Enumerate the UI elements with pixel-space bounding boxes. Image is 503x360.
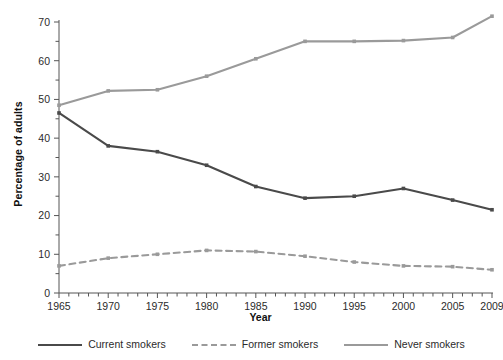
data-point xyxy=(106,256,110,260)
data-point xyxy=(205,163,209,167)
data-point xyxy=(57,103,61,107)
data-point xyxy=(205,74,209,78)
x-axis-title: Year xyxy=(249,311,271,323)
series-2 xyxy=(57,249,494,272)
legend-item-3[interactable]: Never smokers xyxy=(344,338,465,350)
legend-label: Never smokers xyxy=(394,338,465,350)
y-tick-labels: 010203040506070 xyxy=(38,16,50,299)
y-tick-label: 50 xyxy=(38,93,50,105)
data-point xyxy=(156,252,160,256)
data-point xyxy=(205,249,209,253)
data-point xyxy=(402,39,406,43)
data-point xyxy=(352,194,356,198)
data-point xyxy=(254,185,258,189)
legend-item-1[interactable]: Current smokers xyxy=(38,338,166,350)
series-layer xyxy=(57,14,494,271)
series-3 xyxy=(57,14,494,107)
data-point xyxy=(402,187,406,191)
legend-swatch-icon xyxy=(344,339,388,349)
data-point xyxy=(451,36,455,40)
chart-legend: Current smokersFormer smokersNever smoke… xyxy=(0,331,503,357)
y-axis-title-wrap: Percentage of adults xyxy=(0,0,26,300)
data-point xyxy=(490,208,494,212)
y-tick-label: 10 xyxy=(38,248,50,260)
y-axis-title: Percentage of adults xyxy=(12,79,24,229)
legend-swatch-icon xyxy=(192,339,236,349)
data-point xyxy=(303,254,307,258)
y-tick-label: 30 xyxy=(38,171,50,183)
data-point xyxy=(352,260,356,264)
series-line xyxy=(59,250,492,269)
data-point xyxy=(106,89,110,93)
data-point xyxy=(490,268,494,272)
legend-label: Former smokers xyxy=(242,338,318,350)
data-point xyxy=(303,196,307,200)
line-chart: Percentage of adults 010203040506070 196… xyxy=(0,0,503,360)
data-point xyxy=(254,250,258,254)
legend-swatch-icon xyxy=(38,339,82,349)
data-point xyxy=(57,264,61,268)
data-point xyxy=(156,88,160,92)
x-axis-ticks xyxy=(59,293,492,298)
data-point xyxy=(352,40,356,44)
data-point xyxy=(451,265,455,269)
series-line xyxy=(59,16,492,105)
data-point xyxy=(106,144,110,148)
y-tick-label: 20 xyxy=(38,209,50,221)
data-point xyxy=(490,14,494,18)
legend-item-2[interactable]: Former smokers xyxy=(192,338,318,350)
y-tick-label: 0 xyxy=(44,287,50,299)
data-point xyxy=(451,198,455,202)
data-point xyxy=(57,111,61,115)
data-point xyxy=(254,57,258,61)
series-1 xyxy=(57,111,494,211)
y-axis-ticks xyxy=(54,22,59,293)
legend-label: Current smokers xyxy=(88,338,166,350)
y-tick-label: 70 xyxy=(38,16,50,28)
y-tick-label: 60 xyxy=(38,55,50,67)
data-point xyxy=(156,150,160,154)
x-axis-title-wrap: Year xyxy=(0,311,503,323)
data-point xyxy=(402,264,406,268)
series-line xyxy=(59,113,492,210)
plot-area: 010203040506070 196519701975198019851990… xyxy=(0,0,503,330)
y-tick-label: 40 xyxy=(38,132,50,144)
data-point xyxy=(303,40,307,44)
